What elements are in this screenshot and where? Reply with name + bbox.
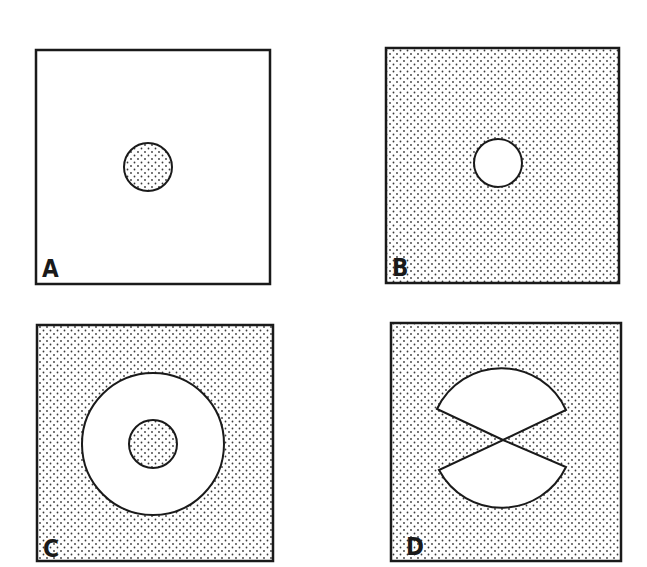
- panel-a-label: A: [42, 255, 59, 283]
- panel-c: C: [37, 325, 273, 563]
- stippled-center-spot: [124, 143, 172, 191]
- panel-d: D: [391, 323, 621, 561]
- stimulus-diagram: A B C D: [0, 0, 647, 567]
- annulus-inner: [129, 420, 177, 468]
- clear-center-spot: [474, 139, 522, 187]
- panel-a: A: [36, 50, 270, 284]
- panel-b-label: B: [392, 254, 408, 282]
- panel-c-label: C: [43, 535, 59, 563]
- panel-d-label: D: [406, 533, 424, 561]
- panel-b: B: [386, 48, 619, 283]
